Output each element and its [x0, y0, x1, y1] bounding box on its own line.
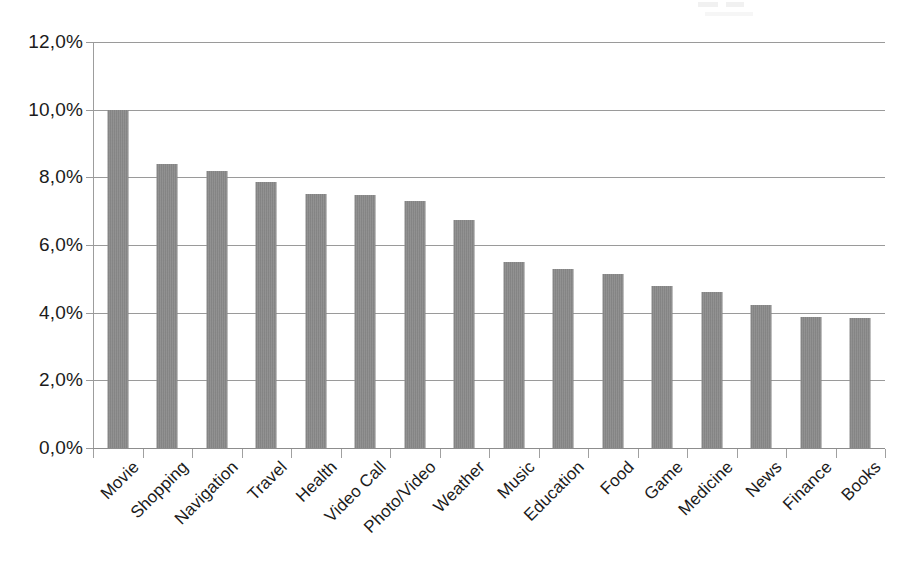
y-axis-tick-label: 6,0%	[5, 235, 83, 254]
bar	[107, 110, 128, 448]
bar-slot	[341, 42, 391, 448]
scan-artifact	[705, 12, 753, 16]
x-axis-tick-mark	[588, 449, 589, 458]
x-axis-tick-mark	[489, 449, 490, 458]
x-axis-tick-label: Weather	[431, 458, 489, 516]
bar-slot	[638, 42, 688, 448]
x-axis-tick-label: Health	[293, 458, 340, 505]
bar-slot	[440, 42, 490, 448]
bar-slot	[737, 42, 787, 448]
bar	[850, 318, 871, 448]
bar	[553, 269, 574, 448]
x-axis-tick-mark	[93, 449, 94, 458]
x-axis-tick-label: Travel	[245, 458, 290, 503]
bar	[503, 262, 524, 448]
x-axis-labels: MovieShoppingNavigationTravelHealthVideo…	[93, 458, 885, 578]
bar-slot	[588, 42, 638, 448]
bar-slot	[143, 42, 193, 448]
x-axis-tick-mark	[341, 449, 342, 458]
bar	[206, 171, 227, 448]
x-axis-tick-mark	[836, 449, 837, 458]
x-axis-tick-mark	[242, 449, 243, 458]
x-axis-tick-label: Movie	[97, 458, 141, 502]
y-axis-tick-label: 2,0%	[5, 370, 83, 389]
bar-slot	[539, 42, 589, 448]
x-axis-tick-mark	[390, 449, 391, 458]
bar	[157, 164, 178, 448]
bar	[751, 305, 772, 448]
x-axis-tick-mark	[192, 449, 193, 458]
x-axis-tick-mark	[737, 449, 738, 458]
x-axis-tick-mark	[885, 449, 886, 458]
bar-slot	[836, 42, 886, 448]
x-axis-tick-label: Food	[597, 458, 637, 498]
bar-chart: 12,0%10,0%8,0%6,0%4,0%2,0%0,0% MovieShop…	[0, 0, 908, 580]
y-axis-labels: 12,0%10,0%8,0%6,0%4,0%2,0%0,0%	[0, 0, 83, 580]
bar	[602, 274, 623, 448]
bar	[305, 194, 326, 448]
x-axis-tick-label: Medicine	[675, 458, 736, 519]
y-axis-tick-label: 10,0%	[5, 100, 83, 119]
scan-artifact	[726, 2, 744, 7]
bar-slot	[786, 42, 836, 448]
bar	[701, 292, 722, 448]
bar	[404, 201, 425, 448]
bar	[256, 182, 277, 448]
x-axis-tick-mark	[539, 449, 540, 458]
y-axis-tick-label: 8,0%	[5, 167, 83, 186]
y-axis-tick-label: 4,0%	[5, 303, 83, 322]
bar-slot	[489, 42, 539, 448]
x-axis-tick-label: Music	[494, 458, 538, 502]
x-axis-tick-label: Books	[838, 458, 884, 504]
bar	[454, 220, 475, 448]
x-axis-tick-mark	[786, 449, 787, 458]
y-axis-tick-label: 12,0%	[5, 32, 83, 51]
bar-slot	[242, 42, 292, 448]
bar	[652, 286, 673, 448]
bar	[800, 317, 821, 448]
bars-layer	[93, 42, 885, 448]
bar	[355, 195, 376, 448]
x-axis-tick-label: Game	[641, 458, 686, 503]
scan-artifact	[698, 2, 718, 7]
y-axis-tick-label: 0,0%	[5, 438, 83, 457]
x-axis-tick-mark	[687, 449, 688, 458]
bar-slot	[192, 42, 242, 448]
x-axis-tick-label: Finance	[779, 458, 834, 513]
x-axis-tick-mark	[440, 449, 441, 458]
bar-slot	[291, 42, 341, 448]
x-axis-tick-mark	[638, 449, 639, 458]
x-axis-tick-mark	[291, 449, 292, 458]
x-axis-tick-mark	[143, 449, 144, 458]
x-axis-tick-label: News	[743, 458, 785, 500]
bar-slot	[687, 42, 737, 448]
bar-slot	[390, 42, 440, 448]
bar-slot	[93, 42, 143, 448]
